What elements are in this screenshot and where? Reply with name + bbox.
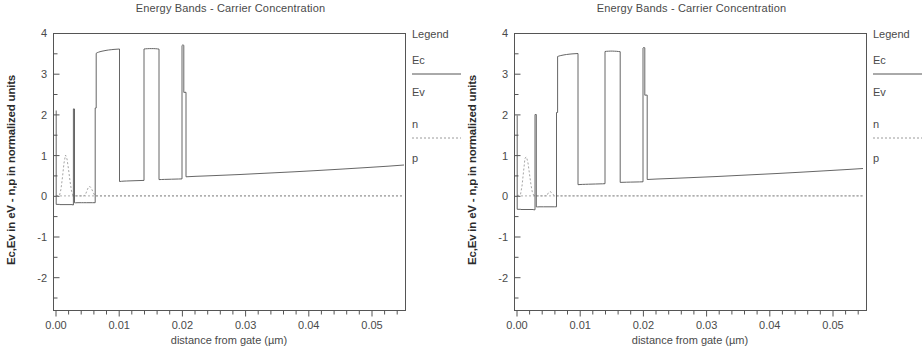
x-tick-label: 0.01 [569, 319, 590, 331]
plot-area-left: 4 3 2 1 0 -1 -2 [0, 0, 461, 358]
y-tick-labels: 4 3 2 1 0 -1 -2 [37, 27, 47, 284]
legend-label-ec: Ec [873, 54, 886, 66]
x-tick-label: 0.00 [506, 319, 527, 331]
y-tick-label: 1 [502, 150, 508, 162]
x-tick-labels: 0.00 0.01 0.02 0.03 0.04 0.05 [506, 319, 843, 331]
y-tick-label: 0 [41, 190, 47, 202]
y-tick-labels: 4 3 2 1 0 -1 -2 [498, 27, 508, 284]
legend-heading: Legend [412, 28, 449, 40]
y-tick-label: -1 [498, 231, 508, 243]
legend-label-ev: Ev [873, 86, 886, 98]
x-tick-label: 0.02 [633, 319, 654, 331]
plot-frame [54, 34, 406, 311]
legend-label-n: n [873, 118, 879, 130]
x-tick-label: 0.04 [298, 319, 319, 331]
y-tick-label: 4 [41, 27, 47, 39]
y-tick-label: -2 [498, 272, 508, 284]
legend-label-p: p [873, 152, 879, 164]
series-n-curve [517, 157, 863, 196]
legend-label-p: p [412, 152, 418, 164]
legend: Legend Ec Ev n p [873, 28, 922, 164]
x-tick-label: 0.03 [235, 319, 256, 331]
y-tick-label: 1 [41, 150, 47, 162]
x-tick-label: 0.03 [696, 319, 717, 331]
chart-panel-left: Energy Bands - Carrier Concentration Ec,… [0, 0, 461, 358]
y-tick-label: -2 [37, 272, 47, 284]
x-tick-label: 0.00 [45, 319, 66, 331]
chart-panel-right: Energy Bands - Carrier Concentration Ec,… [461, 0, 922, 358]
plot-frame [515, 34, 867, 311]
y-tick-label: 0 [502, 190, 508, 202]
legend: Legend Ec Ev n p [412, 28, 461, 164]
y-tick-label: 3 [41, 68, 47, 80]
legend-label-n: n [412, 118, 418, 130]
series-ec-curve [517, 48, 863, 210]
series-ec-curve [56, 45, 404, 205]
y-tick-label: 2 [502, 109, 508, 121]
x-axis-ticks [517, 311, 858, 317]
x-tick-label: 0.01 [108, 319, 129, 331]
x-tick-label: 0.02 [172, 319, 193, 331]
x-tick-label: 0.05 [822, 319, 843, 331]
plot-area-right: 4 3 2 1 0 -1 -2 [461, 0, 922, 358]
legend-label-ec: Ec [412, 54, 425, 66]
x-tick-labels: 0.00 0.01 0.02 0.03 0.04 0.05 [45, 319, 382, 331]
x-tick-label: 0.05 [361, 319, 382, 331]
legend-heading: Legend [873, 28, 910, 40]
x-tick-label: 0.04 [759, 319, 780, 331]
figure-pair: Energy Bands - Carrier Concentration Ec,… [0, 0, 922, 358]
y-tick-label: 4 [502, 27, 508, 39]
y-tick-label: -1 [37, 231, 47, 243]
y-tick-label: 2 [41, 109, 47, 121]
x-axis-ticks [56, 311, 397, 317]
series-n-curve [56, 155, 404, 196]
legend-label-ev: Ev [412, 86, 425, 98]
y-tick-label: 3 [502, 68, 508, 80]
